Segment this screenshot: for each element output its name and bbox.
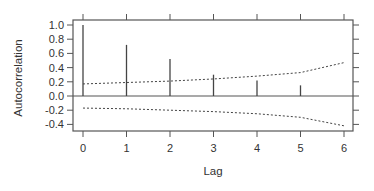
y-axis-right-ticks [353, 25, 359, 124]
x-tick-label: 1 [123, 142, 129, 154]
y-axis: 1.00.80.60.40.20.0-0.2-0.4 [45, 19, 73, 130]
acf-chart: 1.00.80.60.40.20.0-0.2-0.4 0123456 Lag A… [0, 0, 374, 191]
confidence-band-lower [83, 108, 344, 126]
y-tick-label: 0.6 [49, 47, 64, 59]
x-axis-top-ticks [83, 14, 344, 20]
x-tick-label: 2 [167, 142, 173, 154]
x-tick-label: 3 [210, 142, 216, 154]
y-tick-label: -0.4 [45, 118, 64, 130]
y-axis-title: Autocorrelation [12, 39, 24, 116]
x-tick-label: 4 [254, 142, 260, 154]
y-tick-label: 1.0 [49, 19, 64, 31]
x-axis: 0123456 [80, 131, 347, 154]
x-axis-title: Lag [203, 165, 222, 177]
y-tick-label: 0.4 [49, 62, 64, 74]
x-tick-label: 6 [341, 142, 347, 154]
x-tick-label: 5 [297, 142, 303, 154]
y-tick-label: 0.2 [49, 76, 64, 88]
acf-spikes [83, 25, 301, 96]
y-tick-label: 0.8 [49, 33, 64, 45]
x-tick-label: 0 [80, 142, 86, 154]
y-tick-label: -0.2 [45, 104, 64, 116]
y-tick-label: 0.0 [49, 90, 64, 102]
